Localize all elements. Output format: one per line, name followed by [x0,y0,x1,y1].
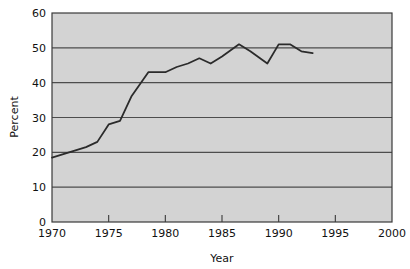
y-tick-label-30: 30 [32,112,46,125]
x-tick-label-1985: 1985 [208,227,236,240]
y-axis-title: Percent [8,96,21,138]
y-tick-label-40: 40 [32,77,46,90]
x-tick-label-1990: 1990 [265,227,293,240]
x-tick-label-1970: 1970 [38,227,66,240]
x-tick-label-1995: 1995 [321,227,349,240]
line-chart: 0102030405060 19701975198019851990199520… [0,0,410,269]
x-axis-title: Year [209,252,234,265]
y-tick-label-20: 20 [32,146,46,159]
y-tick-label-60: 60 [32,7,46,20]
chart-container: 0102030405060 19701975198019851990199520… [0,0,410,269]
x-tick-label-1980: 1980 [151,227,179,240]
y-tick-label-10: 10 [32,181,46,194]
y-tick-label-50: 50 [32,42,46,55]
x-tick-label-2000: 2000 [378,227,406,240]
x-tick-label-1975: 1975 [95,227,123,240]
